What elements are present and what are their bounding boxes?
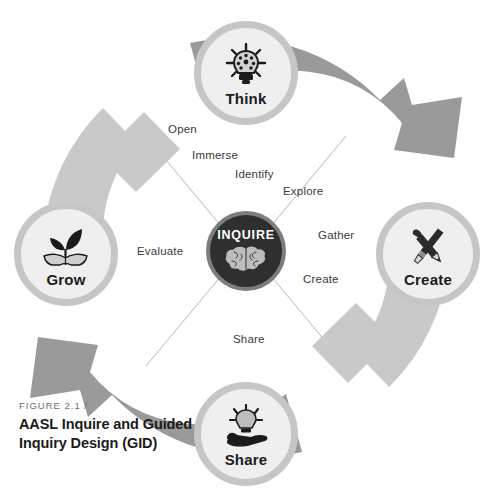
phase-label-create: Create [303, 274, 339, 286]
lightbulb-icon [223, 43, 269, 87]
figure-caption-title: AASL Inquire and Guided Inquiry Design (… [19, 415, 199, 452]
phase-label-evaluate: Evaluate [137, 246, 183, 258]
node-grow-label: Grow [46, 272, 85, 287]
figure-caption: FIGURE 2.1 / AASL Inquire and Guided Inq… [19, 400, 199, 452]
phase-label-identify: Identify [235, 169, 274, 181]
node-create-label: Create [404, 272, 452, 287]
node-share-label: Share [225, 452, 268, 467]
phase-label-gather: Gather [318, 230, 354, 242]
node-grow[interactable]: Grow [14, 202, 118, 306]
spoke-line-lower-left [146, 276, 221, 366]
hub-label: INQUIRE [217, 229, 275, 242]
phase-label-share: Share [233, 334, 265, 346]
figure-aasl-inquire-gid: INQUIRE [0, 0, 492, 495]
hand-lightbulb-icon [221, 404, 271, 448]
figure-caption-eyebrow: FIGURE 2.1 / [19, 400, 199, 411]
node-think[interactable]: Think [194, 21, 298, 125]
spoke-line-upper-right [271, 136, 346, 226]
pencil-brush-icon [404, 224, 452, 268]
brain-icon [224, 243, 268, 273]
hub-inquire[interactable]: INQUIRE [206, 211, 286, 291]
node-think-label: Think [226, 91, 267, 106]
phase-label-open: Open [168, 124, 197, 136]
phase-label-immerse: Immerse [192, 150, 238, 162]
phase-label-explore: Explore [283, 186, 323, 198]
node-share[interactable]: Share [194, 382, 298, 486]
node-create[interactable]: Create [376, 202, 480, 306]
sprout-book-icon [41, 224, 91, 268]
